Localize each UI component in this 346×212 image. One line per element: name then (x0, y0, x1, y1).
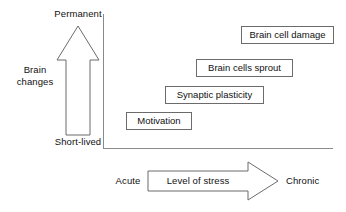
x-axis-title: Level of stress (150, 175, 246, 187)
y-axis-title: Brain changes (10, 64, 60, 88)
x-axis-right-label: Chronic (286, 175, 336, 187)
step-box-brain-cell-damage: Brain cell damage (241, 26, 334, 44)
y-axis-top-label: Permanent (38, 8, 118, 20)
step-box-synaptic-plasticity: Synaptic plasticity (165, 86, 264, 104)
step-box-motivation: Motivation (126, 112, 192, 130)
y-axis-title-line-2: changes (10, 76, 60, 88)
y-axis-title-line-1: Brain (10, 64, 60, 76)
y-axis-bottom-label: Short-lived (36, 136, 120, 148)
brain-changes-arrow (57, 26, 99, 135)
x-axis-left-label: Acute (110, 175, 146, 187)
stress-brain-changes-diagram: Permanent Short-lived Brain changes Acut… (0, 0, 346, 212)
step-box-brain-cells-sprout: Brain cells sprout (196, 59, 293, 77)
